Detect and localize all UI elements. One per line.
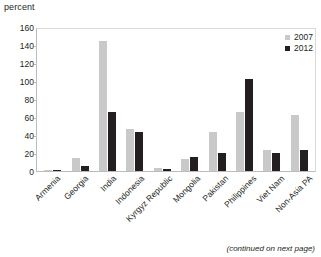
bar-2012 <box>190 157 198 171</box>
bar-group <box>121 29 148 171</box>
y-axis-unit-label: percent <box>4 2 35 13</box>
legend-item-2012: 2012 <box>285 43 313 54</box>
bar-2012 <box>135 132 143 171</box>
bar-group <box>231 29 258 171</box>
bar-group <box>39 29 66 171</box>
y-axis-tick-label: 120 <box>0 60 34 69</box>
legend-label-2007: 2007 <box>294 32 313 43</box>
bar-2007 <box>154 168 162 171</box>
bar-2012 <box>163 169 171 171</box>
bar-2012 <box>300 150 308 171</box>
bar-2012 <box>53 170 61 171</box>
bar-group <box>66 29 93 171</box>
y-axis-tick-label: 160 <box>0 24 34 33</box>
bar-2007 <box>236 112 244 171</box>
bar-group <box>94 29 121 171</box>
y-axis-tick-label: 100 <box>0 78 34 87</box>
x-axis-label: Georgia <box>63 174 91 202</box>
legend-label-2012: 2012 <box>294 43 313 54</box>
bar-2012 <box>245 79 253 171</box>
bar-2007 <box>126 129 134 171</box>
legend-swatch-icon-2007 <box>285 35 290 40</box>
bar-group <box>149 29 176 171</box>
bar-group <box>176 29 203 171</box>
bar-2012 <box>272 153 280 171</box>
y-axis-tick-label: 140 <box>0 42 34 51</box>
bar-series-container <box>37 29 315 171</box>
bar-group <box>203 29 230 171</box>
legend-swatch-icon-2012 <box>285 46 290 51</box>
y-axis-tick-label: 40 <box>0 132 34 141</box>
bar-2007 <box>263 150 271 171</box>
y-axis-tick-label: 80 <box>0 96 34 105</box>
y-axis-tick-label: 20 <box>0 150 34 159</box>
bar-2012 <box>81 166 89 171</box>
bar-2007 <box>181 159 189 171</box>
plot-area <box>36 28 316 172</box>
bar-chart-figure: percent 020406080100120140160 ArmeniaGeo… <box>0 0 321 257</box>
legend: 2007 2012 <box>285 32 313 54</box>
bar-2012 <box>218 153 226 171</box>
y-axis-tick-label: 60 <box>0 114 34 123</box>
x-axis-label: Armenia <box>34 174 63 203</box>
x-axis-label-container: ArmeniaGeorgiaIndiaIndonesiaKyrgyz Repub… <box>36 172 316 242</box>
bar-2007 <box>291 115 299 171</box>
legend-item-2007: 2007 <box>285 32 313 43</box>
continued-footnote: (continued on next page) <box>226 244 315 253</box>
x-axis-label: India <box>99 174 118 193</box>
y-axis-tick-label: 0 <box>0 168 34 177</box>
bar-group <box>258 29 285 171</box>
x-axis-label: Mongolia <box>172 174 203 205</box>
bar-2007 <box>99 41 107 171</box>
bar-2007 <box>209 132 217 171</box>
bar-2007 <box>72 158 80 171</box>
bar-2012 <box>108 112 116 171</box>
bar-2007 <box>44 170 52 171</box>
